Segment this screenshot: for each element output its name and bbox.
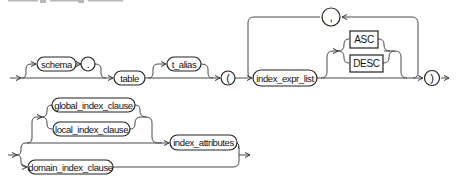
asc-keyword: ASC bbox=[350, 31, 378, 48]
svg-text:index_attributes: index_attributes bbox=[173, 137, 234, 148]
t-alias-term: t_alias bbox=[167, 57, 201, 71]
dot-symbol: . bbox=[81, 57, 95, 71]
svg-text:ASC: ASC bbox=[354, 34, 374, 45]
open-paren-symbol: ( bbox=[221, 71, 235, 85]
svg-text:local_index_clause: local_index_clause bbox=[55, 124, 128, 135]
local-index-clause-term: local_index_clause bbox=[53, 122, 130, 136]
schema-term: schema bbox=[37, 57, 76, 71]
svg-text:t_alias: t_alias bbox=[172, 59, 197, 70]
table-term: table bbox=[114, 71, 145, 85]
svg-text:table: table bbox=[120, 73, 139, 84]
desc-keyword: DESC bbox=[350, 55, 383, 72]
close-paren-symbol: ) bbox=[425, 71, 440, 86]
title-fragment bbox=[8, 0, 123, 3]
svg-text:): ) bbox=[430, 72, 433, 84]
svg-text:.: . bbox=[87, 58, 90, 70]
index-attributes-term: index_attributes bbox=[170, 135, 237, 150]
svg-text:schema: schema bbox=[41, 59, 73, 70]
global-index-clause-term: global_index_clause bbox=[52, 98, 135, 112]
index-expr-list-term: index_expr_list bbox=[253, 70, 317, 86]
svg-text:global_index_clause: global_index_clause bbox=[54, 100, 133, 111]
svg-text:DESC: DESC bbox=[353, 58, 380, 69]
svg-text:,: , bbox=[330, 11, 333, 23]
syntax-diagram: schema . table t_alias ( index_expr_list… bbox=[0, 0, 456, 187]
svg-text:index_expr_list: index_expr_list bbox=[256, 73, 314, 84]
comma-symbol: , bbox=[322, 8, 340, 26]
domain-index-clause-term: domain_index_clause bbox=[28, 160, 113, 174]
svg-text:domain_index_clause: domain_index_clause bbox=[28, 162, 112, 173]
